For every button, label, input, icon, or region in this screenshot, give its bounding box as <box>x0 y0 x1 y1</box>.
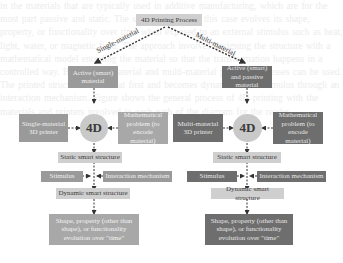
right-math-problem: Mathematical problem (to encode material… <box>273 112 323 144</box>
right-printer: Multi-material 3D printer <box>173 114 223 142</box>
left-active-material: Active (smart) material <box>68 66 118 88</box>
left-outcome: Shape, property (other than shape), or f… <box>49 214 139 245</box>
left-4d-circle: 4D <box>80 114 108 142</box>
root-node: 4D Printing Process <box>136 14 202 26</box>
right-outcome: Shape, property (other than shape), or f… <box>205 214 293 245</box>
right-dynamic-structure: Dynamic smart structure <box>211 188 284 199</box>
left-dynamic-structure: Dynamic smart structure <box>56 188 130 199</box>
left-interaction: Interaction mechanism <box>103 171 172 182</box>
right-4d-circle: 4D <box>233 114 262 142</box>
left-stimulus: Stimulus <box>41 171 83 182</box>
left-printer: Single-material 3D printer <box>19 114 68 142</box>
left-static-structure: Static smart structure <box>58 152 122 163</box>
right-active-material: Active (smart) and passive material <box>222 66 272 88</box>
right-interaction: Interaction mechanism <box>257 171 326 182</box>
right-stimulus: Stimulus <box>187 171 237 182</box>
right-static-structure: Static smart structure <box>213 152 281 163</box>
left-math-problem: Mathematical problem (to encode material… <box>118 112 168 144</box>
